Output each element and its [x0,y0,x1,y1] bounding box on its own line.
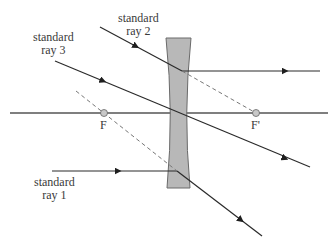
ray3-out-arrow-icon [176,113,285,158]
focal-point-right [253,110,260,117]
focal-point-left [101,110,108,117]
ray3-label: standard ray 3 [33,31,74,57]
focal-label-right: F' [251,119,260,132]
ray1-label-line2: ray 1 [34,189,75,202]
ray1-outgoing [177,171,262,236]
ray2-label-line2: ray 2 [118,25,159,38]
ray3-label-line2: ray 3 [33,44,74,57]
focal-label-left: F [100,119,107,132]
ray1-label: standard ray 1 [34,176,75,202]
ray2-virtual-extension [182,71,256,113]
ray1-virtual-extension [76,91,177,171]
ray2-label: standard ray 2 [118,12,159,38]
